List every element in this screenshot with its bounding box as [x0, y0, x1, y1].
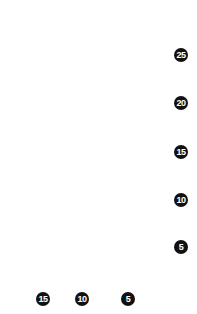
plot-area — [8, 12, 168, 285]
x-axis-tick-badge: 15 — [36, 292, 50, 306]
x-axis-tick-badge: 5 — [121, 292, 135, 306]
y-axis-tick-badge: 25 — [174, 48, 188, 62]
y-axis-tick-badge: 15 — [174, 145, 188, 159]
y-axis-tick-badge: 10 — [174, 193, 188, 207]
y-axis-tick-badge: 5 — [174, 240, 188, 254]
y-axis-tick-badge: 20 — [174, 96, 188, 110]
figure-root: 252015105 15105 — [0, 0, 197, 314]
x-axis-tick-badge: 10 — [75, 292, 89, 306]
minor-gridlines — [8, 12, 168, 285]
